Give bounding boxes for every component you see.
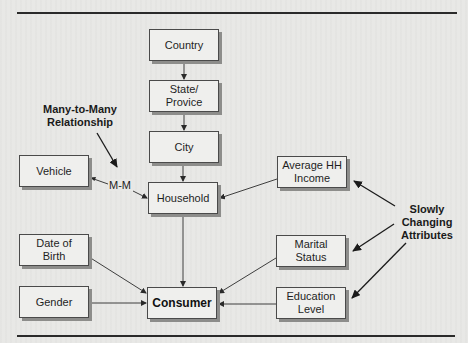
- node-education-level: Education Level: [276, 287, 346, 319]
- node-label: Average HH Income: [282, 159, 342, 185]
- node-label: Marital Status: [294, 238, 327, 264]
- node-label: City: [175, 141, 194, 154]
- node-gender: Gender: [19, 286, 89, 318]
- node-date-of-birth: Date of Birth: [19, 234, 89, 266]
- annotation-arrows: [97, 133, 406, 298]
- node-label: Consumer: [152, 297, 211, 310]
- node-household: Household: [148, 182, 218, 214]
- node-average-hh-income: Average HH Income: [277, 156, 347, 188]
- edge-marital-consumer: [219, 258, 276, 293]
- node-state-province: State/ Provice: [149, 80, 219, 112]
- edge-dob-consumer: [89, 257, 146, 293]
- edge-label-m-m: M-M: [108, 179, 132, 191]
- node-vehicle: Vehicle: [19, 155, 89, 187]
- node-label: Vehicle: [36, 165, 71, 178]
- top-rule: [17, 12, 457, 14]
- node-label: Education Level: [287, 290, 336, 316]
- node-label: Country: [165, 39, 204, 52]
- annotation-slowly-changing: Slowly Changing Attributes: [395, 203, 459, 242]
- node-label: Gender: [36, 296, 73, 309]
- edge-income-household: [220, 179, 277, 198]
- node-country: Country: [149, 29, 219, 61]
- bottom-rule: [17, 335, 455, 337]
- node-consumer: Consumer: [147, 287, 217, 319]
- diagram-canvas: Country State/ Provice City Household Co…: [0, 0, 468, 343]
- node-label: Household: [157, 192, 210, 205]
- annotation-many-to-many: Many-to-Many Relationship: [38, 103, 122, 129]
- node-marital-status: Marital Status: [276, 235, 346, 267]
- node-label: Date of Birth: [36, 237, 71, 263]
- node-city: City: [149, 131, 219, 163]
- node-label: State/ Provice: [166, 83, 203, 109]
